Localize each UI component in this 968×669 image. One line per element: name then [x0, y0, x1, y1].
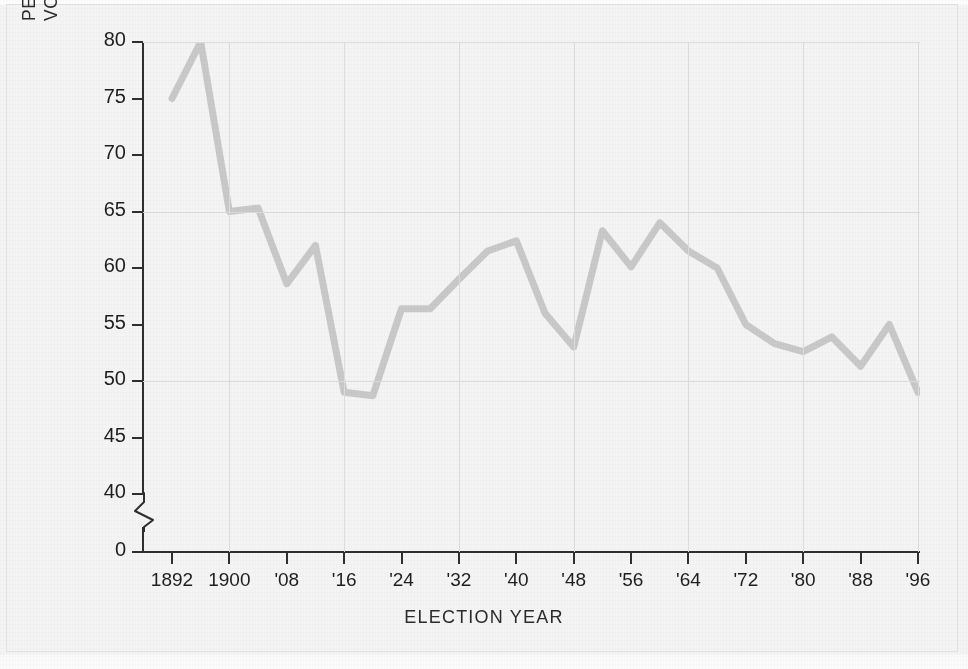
- y-axis-tick-label: 55: [84, 311, 126, 334]
- x-axis-tick-mark: [228, 552, 230, 564]
- x-axis-tick-mark: [171, 552, 173, 564]
- y-axis-tick-label: 75: [84, 85, 126, 108]
- y-axis-tick-mark: [132, 211, 143, 213]
- x-axis-tick-mark: [286, 552, 288, 564]
- x-axis-tick-label: '80: [791, 569, 816, 591]
- gridline-vertical: [918, 42, 919, 552]
- y-axis-tick-label: 0: [84, 538, 126, 561]
- y-axis-tick-mark: [132, 493, 143, 495]
- x-axis-tick-label: '72: [733, 569, 758, 591]
- x-axis-tick-label: '96: [906, 569, 931, 591]
- x-axis-tick-label: '56: [619, 569, 644, 591]
- x-axis-tick-label: '24: [389, 569, 414, 591]
- gridline-vertical: [344, 42, 345, 552]
- x-axis-tick-mark: [401, 552, 403, 564]
- y-axis-tick-label: 40: [84, 480, 126, 503]
- y-axis-tick-mark: [132, 267, 143, 269]
- x-axis-tick-mark: [458, 552, 460, 564]
- page-edge-bottom: [0, 655, 968, 669]
- gridline-vertical: [229, 42, 230, 552]
- y-axis-tick-label: 60: [84, 254, 126, 277]
- x-axis-tick-mark: [573, 552, 575, 564]
- gridline-vertical: [574, 42, 575, 552]
- gridline-vertical: [803, 42, 804, 552]
- page-edge-top: [0, 0, 968, 5]
- x-axis-tick-mark: [917, 552, 919, 564]
- plot-area: [143, 42, 920, 552]
- x-axis-tick-label: '40: [504, 569, 529, 591]
- x-axis-tick-mark: [343, 552, 345, 564]
- x-axis-tick-label: '88: [848, 569, 873, 591]
- x-axis-tick-label: 1892: [151, 569, 193, 591]
- x-axis-tick-mark: [515, 552, 517, 564]
- y-axis-tick-labels: 8075706560555045400: [78, 0, 126, 600]
- y-axis-tick-label: 50: [84, 367, 126, 390]
- chart-page: PERCENTAGE OF THE VOTING-AGE POPULATION …: [0, 0, 968, 669]
- y-axis-tick-mark: [132, 380, 143, 382]
- gridline-vertical: [688, 42, 689, 552]
- y-axis-tick-mark: [132, 324, 143, 326]
- y-axis-tick-mark: [132, 98, 143, 100]
- x-axis-tick-label: '32: [447, 569, 472, 591]
- turnout-polyline: [172, 42, 918, 396]
- x-axis-tick-mark: [745, 552, 747, 564]
- y-axis-tick-mark: [132, 154, 143, 156]
- x-axis-tick-label: '48: [561, 569, 586, 591]
- y-axis-tick-mark: [132, 41, 143, 43]
- x-axis-title: ELECTION YEAR: [0, 607, 968, 628]
- x-axis-tick-mark: [802, 552, 804, 564]
- x-axis-tick-mark: [860, 552, 862, 564]
- x-axis-tick-label: '16: [332, 569, 357, 591]
- y-axis-tick-mark: [132, 551, 143, 553]
- x-axis-tick-label: 1900: [208, 569, 250, 591]
- x-axis-tick-label: '08: [274, 569, 299, 591]
- y-axis-tick-label: 70: [84, 141, 126, 164]
- x-axis-tick-mark: [687, 552, 689, 564]
- y-axis-tick-label: 45: [84, 424, 126, 447]
- y-axis-tick-mark: [132, 437, 143, 439]
- y-axis-tick-label: 80: [84, 28, 126, 51]
- x-axis-tick-label: '64: [676, 569, 701, 591]
- gridline-vertical: [459, 42, 460, 552]
- y-axis-tick-label: 65: [84, 198, 126, 221]
- x-axis-tick-mark: [630, 552, 632, 564]
